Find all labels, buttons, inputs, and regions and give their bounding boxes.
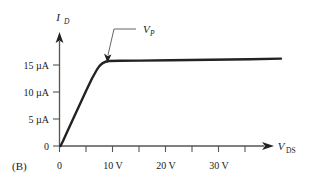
y-tick-label-10ua: 10 µA (24, 87, 50, 98)
y-tick-label-0: 0 (44, 141, 49, 152)
x-axis-ticks (60, 146, 246, 152)
vp-leader-line (108, 29, 136, 55)
x-tick-label-0: 0 (57, 160, 62, 171)
panel-label: (B) (12, 160, 27, 173)
y-axis-title: I D (55, 11, 70, 26)
x-tick-label-30v: 30 V (209, 160, 229, 171)
x-axis-title-main: V (278, 140, 286, 152)
drain-current-curve (61, 59, 282, 146)
x-tick-label-20v: 20 V (156, 160, 176, 171)
y-axis-title-main: I (55, 11, 61, 23)
y-axis-tick-labels: 15 µA 10 µA 5 µA 0 (24, 60, 50, 152)
x-axis-title-subscript: DS (286, 146, 296, 155)
y-axis-ticks (53, 65, 60, 146)
vp-annotation: V P (104, 23, 155, 63)
y-tick-label-15ua: 15 µA (24, 60, 50, 71)
y-axis (56, 32, 64, 146)
x-tick-label-10v: 10 V (103, 160, 123, 171)
x-axis (60, 142, 275, 150)
x-axis-title: V DS (278, 140, 296, 155)
x-axis-tick-labels: 0 10 V 20 V 30 V (57, 160, 230, 171)
y-tick-label-5ua: 5 µA (29, 114, 50, 125)
chart-svg: 15 µA 10 µA 5 µA 0 0 10 V 20 V 30 V I D … (0, 0, 313, 181)
jfet-drain-characteristic-figure: 15 µA 10 µA 5 µA 0 0 10 V 20 V 30 V I D … (0, 0, 313, 181)
y-axis-title-subscript: D (63, 17, 70, 26)
vp-label-subscript: P (149, 29, 155, 38)
